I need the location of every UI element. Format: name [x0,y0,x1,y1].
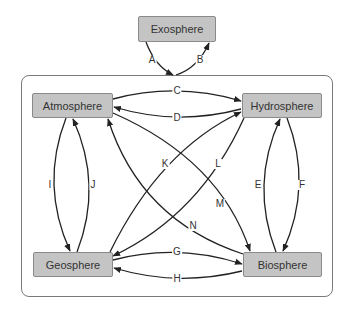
label-g: G [172,247,182,257]
arrow-j [73,119,89,252]
arrow-m [113,113,250,251]
label-l: L [214,159,222,169]
label-i: I [48,180,53,190]
node-hydrosphere: Hydrosphere [242,93,322,118]
label-n: N [188,221,197,231]
node-exosphere: Exosphere [138,16,216,42]
label-e: E [254,180,263,190]
arrow-k [110,112,241,252]
label-j: J [90,180,97,190]
label-d: D [172,113,181,123]
label-m: M [215,199,225,209]
label-h: H [172,274,181,284]
label-f: F [298,180,306,190]
arrow-i [54,118,70,251]
arrow-n [108,119,243,254]
label-a: A [148,55,157,65]
arrow-e [264,119,280,252]
earth-systems-diagram: Exosphere Atmosphere Hydrosphere Geosphe… [0,0,353,313]
arrow-l [113,118,244,256]
node-atmosphere: Atmosphere [32,93,113,118]
label-b: B [196,55,205,65]
label-k: K [161,159,170,169]
node-geosphere: Geosphere [33,252,113,277]
node-biosphere: Biosphere [243,252,322,277]
arrow-f [283,118,299,251]
label-c: C [172,86,181,96]
